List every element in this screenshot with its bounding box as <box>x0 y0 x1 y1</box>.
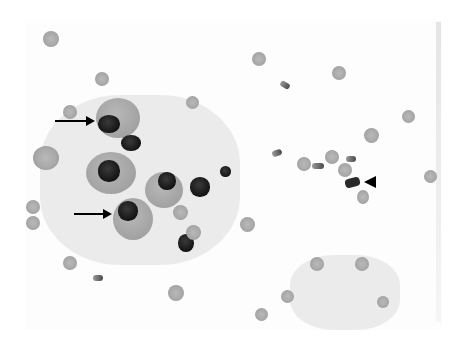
red-blood-cell <box>186 96 199 109</box>
red-blood-cell <box>240 217 255 232</box>
red-blood-cell <box>26 216 40 230</box>
red-blood-cell <box>186 225 201 240</box>
red-blood-cell <box>168 285 184 301</box>
arrowhead-left <box>364 176 376 188</box>
red-blood-cell <box>173 205 188 220</box>
red-blood-cell <box>95 72 109 86</box>
red-blood-cell <box>355 257 369 271</box>
rod-cell <box>93 275 103 281</box>
red-blood-cell <box>297 157 311 171</box>
micrograph <box>0 0 463 351</box>
nucleus <box>190 177 210 197</box>
rod-cell <box>312 163 324 169</box>
arrow-upper <box>55 120 93 122</box>
red-blood-cell <box>255 308 268 321</box>
bottom-right-smear <box>290 255 400 330</box>
red-blood-cell <box>43 31 59 47</box>
nucleus <box>118 201 138 221</box>
red-blood-cell <box>310 257 324 271</box>
red-blood-cell <box>63 256 77 270</box>
red-blood-cell <box>424 170 437 183</box>
nucleus <box>158 172 176 190</box>
red-blood-cell <box>364 128 379 143</box>
red-blood-cell <box>252 52 266 66</box>
red-blood-cell <box>332 66 346 80</box>
red-blood-cell <box>281 290 294 303</box>
arrow-lower <box>74 213 110 215</box>
right-edge-artifact <box>436 22 441 322</box>
red-blood-cell <box>338 163 352 177</box>
red-blood-cell <box>33 146 59 170</box>
red-blood-cell <box>325 150 339 164</box>
nucleus <box>98 160 120 182</box>
nucleus <box>98 115 120 133</box>
nucleus <box>220 166 231 177</box>
red-blood-cell <box>357 190 369 204</box>
red-blood-cell <box>63 105 77 119</box>
red-blood-cell <box>377 296 389 308</box>
nucleus <box>121 135 141 151</box>
rod-cell <box>346 156 356 162</box>
red-blood-cell <box>26 200 40 214</box>
red-blood-cell <box>402 110 415 123</box>
